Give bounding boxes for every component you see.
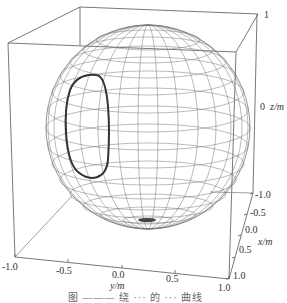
y-axis-label: y/m: [110, 281, 124, 291]
z-tick-label: 1: [264, 10, 269, 20]
x-tick-label: 0.0: [245, 225, 258, 235]
y-tick-label: -0.5: [56, 266, 72, 276]
z-axis-label: z/m: [270, 102, 284, 112]
y-tick-label: -1.0: [2, 262, 18, 272]
bottom-pole-marker: [138, 218, 156, 222]
x-tick-label: -0.5: [250, 208, 266, 218]
x-axis-label: x/m: [258, 237, 272, 247]
y-tick-label: 0.0: [112, 270, 125, 280]
sphere-wireframe: [46, 25, 250, 229]
x-tick-label: 0.5: [239, 245, 252, 255]
x-tick-label: -1.0: [255, 190, 271, 200]
z-tick-label: 0: [260, 102, 265, 112]
x-tick-label: 1.0: [233, 271, 246, 281]
y-tick-label: 0.5: [166, 274, 179, 284]
y-tick-label: 1.0: [218, 283, 231, 293]
figure-caption: 图 ——— 绕 ··· 的 ··· 曲线: [68, 293, 203, 303]
